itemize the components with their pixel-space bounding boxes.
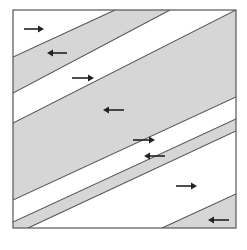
flow-diagram [0,0,247,250]
